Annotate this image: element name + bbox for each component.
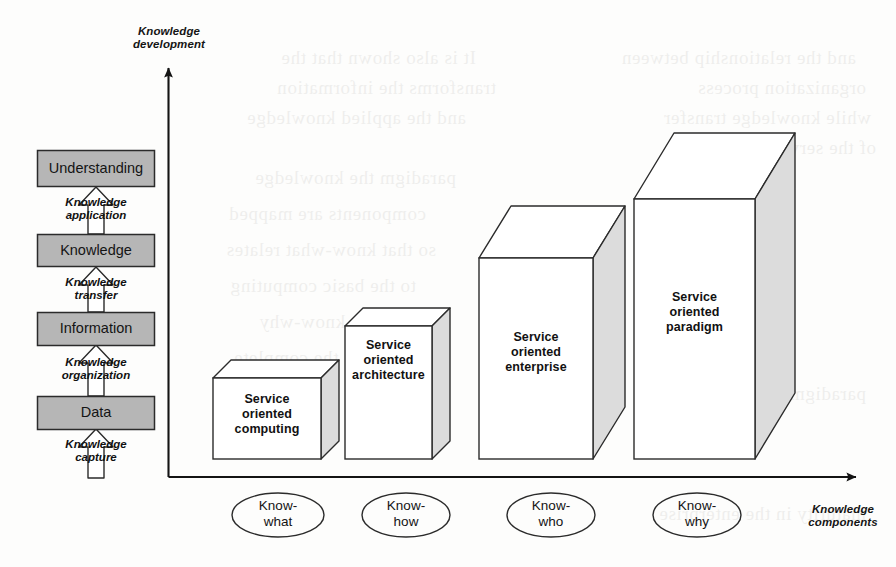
vertical-axis-label-line1: Knowledge <box>108 25 230 38</box>
bar-label-line2: oriented <box>634 305 755 320</box>
ladder-arrow-label-knowledge-capture: Knowledge capture <box>20 438 172 464</box>
arrow-label-line1: Knowledge <box>20 276 172 289</box>
ladder-step-label-understanding: Understanding <box>37 160 155 176</box>
component-label-line1: Know- <box>232 498 324 514</box>
arrow-label-line1: Knowledge <box>20 356 172 369</box>
component-label-know-who: Know- who <box>507 498 595 530</box>
ladder-step-label-knowledge: Knowledge <box>37 242 155 258</box>
bar-label-line1: Service <box>341 338 436 353</box>
component-label-line2: what <box>232 514 324 530</box>
component-label-line1: Know- <box>362 498 450 514</box>
component-label-know-why: Know- why <box>653 498 741 530</box>
bar-label-line3: paradigm <box>634 320 755 335</box>
component-label-line2: who <box>507 514 595 530</box>
ladder-arrow-label-knowledge-organization: Knowledge organization <box>20 356 172 382</box>
bar-label-line3: computing <box>213 422 321 437</box>
component-label-know-what: Know- what <box>232 498 324 530</box>
horizontal-axis-label-line2: components <box>790 516 896 529</box>
component-label-line2: how <box>362 514 450 530</box>
component-label-line2: why <box>653 514 741 530</box>
bar-label-service-oriented-enterprise: Service oriented enterprise <box>479 330 593 375</box>
bar-label-service-oriented-architecture: Service oriented architecture <box>341 338 436 383</box>
arrow-label-line2: capture <box>20 451 172 464</box>
arrow-label-line2: application <box>20 209 172 222</box>
horizontal-axis-label-line1: Knowledge <box>790 503 896 516</box>
bar-label-line2: oriented <box>213 407 321 422</box>
component-label-line1: Know- <box>507 498 595 514</box>
bar-label-line1: Service <box>479 330 593 345</box>
bar-label-line3: enterprise <box>479 360 593 375</box>
arrow-label-line2: organization <box>20 369 172 382</box>
ladder-step-label-information: Information <box>37 320 155 336</box>
component-label-line1: Know- <box>653 498 741 514</box>
bar-label-service-oriented-computing: Service oriented computing <box>213 392 321 437</box>
arrow-label-line1: Knowledge <box>20 438 172 451</box>
ladder-arrow-label-knowledge-application: Knowledge application <box>20 196 172 222</box>
arrow-label-line1: Knowledge <box>20 196 172 209</box>
bar-label-line1: Service <box>213 392 321 407</box>
component-label-know-how: Know- how <box>362 498 450 530</box>
vertical-axis-label-line2: development <box>108 38 230 51</box>
bar-label-line1: Service <box>634 290 755 305</box>
bar-label-line2: oriented <box>479 345 593 360</box>
horizontal-axis-label: Knowledge components <box>790 503 896 529</box>
ladder-arrow-label-knowledge-transfer: Knowledge transfer <box>20 276 172 302</box>
bar-label-line3: architecture <box>341 368 436 383</box>
arrow-label-line2: transfer <box>20 289 172 302</box>
bar-label-service-oriented-paradigm: Service oriented paradigm <box>634 290 755 335</box>
bar-label-line2: oriented <box>341 353 436 368</box>
vertical-axis-label: Knowledge development <box>108 25 230 51</box>
figure-canvas: and the relationship between It is also … <box>0 0 896 567</box>
bar-service-oriented-architecture <box>345 308 450 459</box>
ladder-step-label-data: Data <box>37 404 155 420</box>
